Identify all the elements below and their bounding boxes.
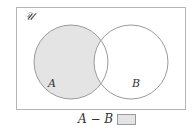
- legend-expression: A − B: [78, 112, 113, 126]
- set-b-label: B: [131, 77, 140, 90]
- venn-diagram: 𝒰 A B: [0, 0, 196, 128]
- set-a-label: A: [47, 77, 56, 90]
- legend: A − B: [78, 112, 136, 126]
- legend-swatch: [117, 114, 136, 125]
